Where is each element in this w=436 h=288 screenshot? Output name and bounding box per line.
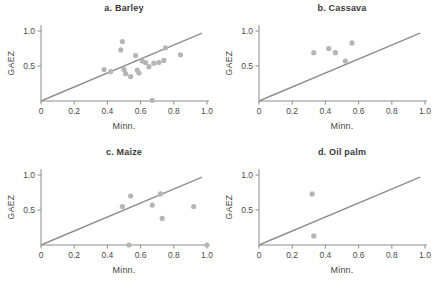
y-tick-label: 0.5: [241, 61, 253, 71]
x-tick-label: 1.0: [419, 106, 431, 116]
x-tick-label: 1.0: [201, 106, 213, 116]
data-point: [161, 58, 166, 63]
scatter-figure: a. Barley GAEZ Minn. 00.20.40.60.81.00.5…: [0, 0, 436, 288]
data-point: [191, 204, 196, 209]
x-tick-label: 0.2: [68, 250, 80, 260]
x-tick-label: 0.4: [101, 106, 113, 116]
data-point: [151, 61, 156, 66]
data-point: [118, 47, 123, 52]
x-tick-label: 0: [39, 250, 44, 260]
subplot-c-maize: c. Maize GAEZ Minn. 00.20.40.60.81.00.51…: [0, 144, 218, 288]
data-point: [311, 50, 316, 55]
data-point: [136, 70, 141, 75]
data-point: [128, 193, 133, 198]
x-tick-label: 0.6: [135, 250, 147, 260]
data-point: [158, 191, 163, 196]
x-tick-label: 0.8: [168, 250, 180, 260]
x-tick-label: 0: [39, 106, 44, 116]
x-tick-label: 0.8: [386, 250, 398, 260]
data-point: [120, 204, 125, 209]
data-point: [311, 233, 316, 238]
x-tick-label: 0.2: [68, 106, 80, 116]
x-tick-label: 0: [257, 250, 262, 260]
data-point: [163, 45, 168, 50]
x-tick-label: 1.0: [201, 250, 213, 260]
data-point: [333, 50, 338, 55]
x-tick-label: 0.2: [286, 106, 298, 116]
plot-area: 00.20.40.60.81.00.51.0: [0, 144, 218, 288]
data-point: [150, 98, 155, 103]
data-point: [123, 71, 128, 76]
plot-area: 00.20.40.60.81.00.51.0: [218, 144, 436, 288]
identity-line: [259, 33, 420, 101]
data-point: [120, 39, 125, 44]
y-tick-label: 1.0: [241, 170, 253, 180]
data-point: [326, 46, 331, 51]
y-tick-label: 0.5: [23, 61, 35, 71]
x-tick-label: 0: [257, 106, 262, 116]
x-tick-label: 0.6: [353, 250, 365, 260]
y-tick-label: 1.0: [23, 170, 35, 180]
x-tick-label: 0.4: [101, 250, 113, 260]
data-point: [150, 203, 155, 208]
data-point: [143, 60, 148, 65]
subplot-b-cassava: b. Cassava GAEZ Minn. 00.20.40.60.81.00.…: [218, 0, 436, 144]
y-tick-label: 1.0: [23, 26, 35, 36]
subplot-a-barley: a. Barley GAEZ Minn. 00.20.40.60.81.00.5…: [0, 0, 218, 144]
data-point: [310, 191, 315, 196]
data-point: [133, 53, 138, 58]
identity-line: [259, 177, 420, 245]
x-tick-label: 0.8: [386, 106, 398, 116]
x-tick-label: 0.4: [319, 250, 331, 260]
data-point: [349, 40, 354, 45]
data-point: [343, 59, 348, 64]
data-point: [128, 74, 133, 79]
subplot-d-oil-palm: d. Oil palm GAEZ Minn. 00.20.40.60.81.00…: [218, 144, 436, 288]
x-tick-label: 0.8: [168, 106, 180, 116]
x-tick-label: 1.0: [419, 250, 431, 260]
identity-line: [41, 177, 202, 245]
x-tick-label: 0.4: [319, 106, 331, 116]
y-tick-label: 1.0: [241, 26, 253, 36]
plot-area: 00.20.40.60.81.00.51.0: [0, 0, 218, 144]
x-tick-label: 0.6: [353, 106, 365, 116]
y-tick-label: 0.5: [241, 205, 253, 215]
data-point: [204, 242, 209, 247]
data-point: [146, 64, 151, 69]
data-point: [178, 52, 183, 57]
data-point: [108, 69, 113, 74]
x-tick-label: 0.6: [135, 106, 147, 116]
data-point: [101, 67, 106, 72]
data-point: [156, 60, 161, 65]
plot-area: 00.20.40.60.81.00.51.0: [218, 0, 436, 144]
data-point: [160, 216, 165, 221]
data-point: [126, 242, 131, 247]
y-tick-label: 0.5: [23, 205, 35, 215]
x-tick-label: 0.2: [286, 250, 298, 260]
